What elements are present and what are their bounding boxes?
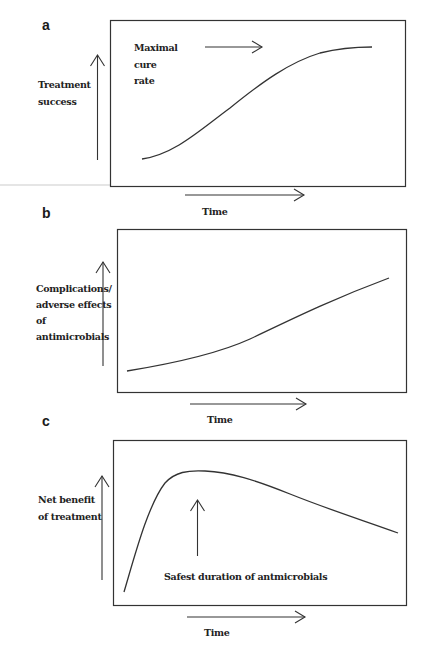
panel-a-y-label-line-2: success (38, 94, 76, 110)
panel-c-time-arrow-icon (187, 611, 305, 623)
panel-b-frame (118, 230, 407, 393)
panel-b-letter: b (42, 205, 51, 221)
panel-a-annotation-line-2: cure (134, 57, 157, 73)
panel-c-y-label-line-2: of treatment (38, 509, 102, 525)
panel-b-time-arrow-icon (190, 398, 306, 410)
panel-c-letter: c (42, 413, 50, 429)
panel-a-maximal-arrow-icon (205, 41, 262, 53)
panel-b-curve (127, 278, 389, 371)
panel-b-y-label-line-2: adverse effects (36, 297, 111, 313)
panel-b-y-arrow-icon (96, 262, 110, 366)
panel-a-y-arrow-icon (91, 55, 105, 160)
panel-a-y-label-line-1: Treatment (38, 77, 91, 93)
panel-b-x-label: Time (207, 412, 233, 428)
panel-b (96, 230, 407, 411)
panel-c-safest-duration-label: Safest duration of antmicrobials (164, 569, 327, 585)
panel-c (95, 441, 407, 624)
panel-a-x-label: Time (202, 204, 228, 220)
panel-c-y-arrow-icon (95, 476, 109, 580)
panel-b-y-label-line-4: antimicrobials (36, 329, 109, 345)
panel-a-annotation-line-3: rate (134, 73, 154, 89)
panel-a-annotation-line-1: Maximal (134, 40, 178, 56)
panel-b-y-label-line-3: of (36, 313, 46, 329)
figure: a Treatment success Maximal cure rate Ti… (0, 0, 425, 651)
panel-a-time-arrow-icon (185, 189, 304, 201)
panel-c-x-label: Time (204, 625, 230, 641)
panel-b-y-label-line-1: Complications/ (36, 281, 112, 297)
panel-a-curve (142, 47, 372, 159)
panel-c-safest-arrow-icon (191, 500, 205, 556)
panel-c-y-label-line-1: Net benefit (38, 492, 95, 508)
panel-a-letter: a (42, 17, 50, 33)
